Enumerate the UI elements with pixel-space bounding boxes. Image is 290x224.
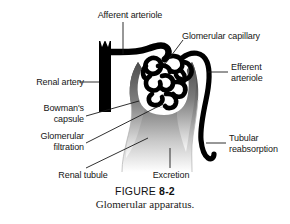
label-bowmans-capsule-line1: Bowman's <box>6 103 84 114</box>
label-efferent-arteriole-line2: arteriole <box>231 73 289 84</box>
label-bowmans-capsule-line2: capsule <box>6 114 84 125</box>
figure-caption: FIGURE 8-2 Glomerular apparatus. <box>0 185 290 211</box>
capillary-loop-5 <box>161 75 173 90</box>
label-bowmans-capsule: Bowman's capsule <box>6 103 84 124</box>
label-renal-artery-text: Renal artery <box>36 77 84 87</box>
label-tubular-reabsorption-line1: Tubular <box>229 133 290 144</box>
label-excretion-text: Excretion <box>153 170 190 180</box>
label-efferent-arteriole: Efferent arteriole <box>231 62 289 83</box>
figure-title: Glomerular apparatus. <box>0 198 290 211</box>
figure-number: 8-2 <box>159 185 175 197</box>
label-glomerular-capillary-text: Glomerular capillary <box>182 31 260 41</box>
label-renal-tubule: Renal tubule <box>50 170 116 181</box>
label-glomerular-filtration-line1: Glomerular <box>2 131 84 142</box>
label-afferent-arteriole-text: Afferent arteriole <box>98 10 163 20</box>
label-glomerular-capillary: Glomerular capillary <box>182 31 290 42</box>
label-excretion: Excretion <box>141 170 201 181</box>
label-tubular-reabsorption-line2: reabsorption <box>229 144 290 155</box>
figure-number-prefix: FIGURE <box>115 185 156 197</box>
label-afferent-arteriole: Afferent arteriole <box>78 10 182 21</box>
capillary-loop-8 <box>165 94 176 108</box>
renal-artery <box>99 37 111 112</box>
afferent-arteriole-vessel <box>110 46 169 59</box>
capillary-loop-7 <box>149 94 163 105</box>
figure-container: Afferent arteriole Glomerular capillary … <box>0 0 290 224</box>
label-tubular-reabsorption: Tubular reabsorption <box>229 133 290 154</box>
label-renal-tubule-text: Renal tubule <box>58 170 107 180</box>
label-renal-artery: Renal artery <box>6 77 84 88</box>
figure-number-line: FIGURE 8-2 <box>0 185 290 197</box>
leader-bowmans-capsule <box>86 101 139 116</box>
label-efferent-arteriole-line1: Efferent <box>231 62 289 73</box>
label-glomerular-filtration-line2: filtration <box>2 142 84 153</box>
label-glomerular-filtration: Glomerular filtration <box>2 131 84 152</box>
